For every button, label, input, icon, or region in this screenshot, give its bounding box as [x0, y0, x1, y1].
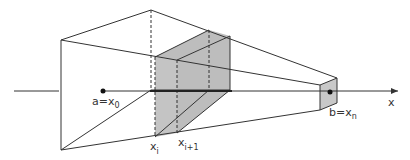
label-xi: xi: [150, 140, 159, 156]
frustum-slice-diagram: a=x0 b=xn xi xi+1 x: [0, 0, 410, 160]
label-axis-x: x: [388, 96, 395, 109]
point-a: [101, 89, 106, 94]
label-b: b=xn: [329, 106, 357, 121]
axis-arrow-icon: [391, 88, 398, 94]
label-xi1: xi+1: [178, 136, 199, 152]
label-a: a=x0: [92, 95, 120, 110]
point-b: [328, 90, 333, 95]
slab-front-face: [155, 57, 177, 137]
